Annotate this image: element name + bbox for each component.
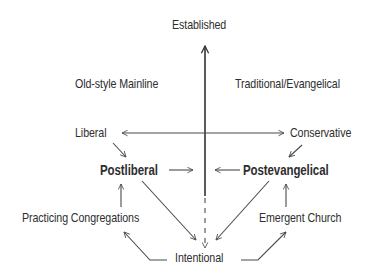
label-liberal: Liberal <box>75 125 106 141</box>
label-old-style-mainline: Old-style Mainline <box>75 76 158 92</box>
label-intentional: Intentional <box>175 250 223 266</box>
label-conservative: Conservative <box>290 125 351 141</box>
label-practicing-congregations: Practicing Congregations <box>22 210 139 226</box>
arrow-intentional-to-emergent <box>241 232 286 260</box>
label-emergent-church: Emergent Church <box>259 210 341 226</box>
label-postliberal: Postliberal <box>100 162 158 178</box>
diagram-canvas: Established Old-style Mainline Tradition… <box>0 0 379 280</box>
label-established: Established <box>172 17 226 33</box>
arrow-intentional-to-practicing <box>124 232 167 260</box>
label-traditional-evangelical: Traditional/Evangelical <box>235 76 340 92</box>
arrow-liberal-to-postliberal <box>113 143 126 157</box>
arrow-conservative-to-postevangelical <box>289 145 302 157</box>
arrow-postliberal-to-intentional <box>142 181 196 240</box>
label-postevangelical: Postevangelical <box>243 162 329 178</box>
